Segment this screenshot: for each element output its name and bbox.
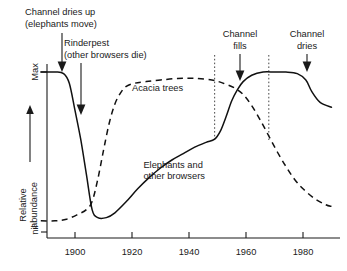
annotation-rinderpest-line-2: (other browsers die) xyxy=(64,50,147,60)
y-tick-label-max: Max xyxy=(30,63,40,81)
annotation-rinderpest-arrow-head xyxy=(77,105,86,116)
annotation-channel-fills-line-2: fills xyxy=(233,41,247,51)
series-elephants-and-other-browsers xyxy=(41,72,332,219)
annotation-channel-dries: Channel dries xyxy=(290,29,325,72)
relative-abundance-line-chart: Max nil Relative abundance 1900192019401… xyxy=(0,0,347,271)
x-tick-label-1980: 1980 xyxy=(293,247,314,257)
elephants-label: Elephants and xyxy=(143,160,202,170)
annotation-rinderpest: Rinderpest (other browsers die) xyxy=(64,38,147,115)
x-tick-label-1960: 1960 xyxy=(236,247,257,257)
annotation-channel-dries-up-line-2: (elephants move) xyxy=(25,19,97,29)
annotation-channel-fills-arrow-head xyxy=(236,71,245,82)
annotation-channel-dries-up-arrow-head xyxy=(58,62,67,73)
annotation-rinderpest-line-1: Rinderpest xyxy=(64,38,109,48)
x-tick-label-1900: 1900 xyxy=(65,247,86,257)
annotation-channel-dries-arrow-head xyxy=(303,62,312,73)
x-tick-label-1940: 1940 xyxy=(179,247,200,257)
y-axis-title-line-2: abundance xyxy=(29,182,39,228)
y-axis-title-group: Relative abundance xyxy=(18,105,39,228)
elephants-label-2: other browsers xyxy=(143,171,205,181)
chart-axes xyxy=(41,64,340,238)
series-inline-labels: Acacia treesElephants andother browsers xyxy=(132,83,205,181)
x-tick-label-1920: 1920 xyxy=(122,247,143,257)
y-axis-direction-arrow-head xyxy=(26,105,34,114)
series-acacia-trees xyxy=(41,78,332,221)
y-axis-title-line-1: Relative xyxy=(18,188,28,222)
chart-figure: Max nil Relative abundance 1900192019401… xyxy=(0,0,347,271)
annotation-channel-dries-line-2: dries xyxy=(297,41,318,51)
annotation-channel-dries-up-line-1: Channel dries up xyxy=(25,7,95,17)
x-axis-ticks: 19001920194019601980 xyxy=(65,232,314,257)
annotation-channel-fills-line-1: Channel xyxy=(223,29,258,39)
annotation-channel-dries-line-1: Channel xyxy=(290,29,325,39)
annotation-channel-fills: Channel fills xyxy=(223,29,258,81)
acacia-trees-label: Acacia trees xyxy=(132,83,184,93)
